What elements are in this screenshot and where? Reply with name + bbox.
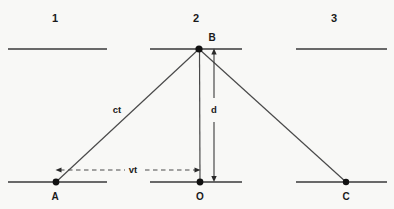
- point-b-dot: [195, 45, 202, 52]
- frame-label-1: 1: [52, 13, 58, 24]
- light-clock-diagram-svg: [0, 0, 394, 209]
- measure-label-d: d: [211, 105, 217, 115]
- point-o-dot: [197, 179, 204, 186]
- point-a-dot: [53, 179, 60, 186]
- dimension-d-arrowhead-down: [211, 176, 216, 182]
- light-rays-group: [56, 49, 346, 182]
- point-c-dot: [343, 179, 349, 185]
- node-dots-group: [53, 45, 350, 185]
- dimension-d-group: [211, 49, 216, 183]
- ray-b-to-c: [199, 49, 346, 182]
- point-label-a: A: [51, 192, 58, 202]
- diagram-canvas: 1 2 3 A O B C ct d vt: [0, 0, 394, 209]
- ray-b-to-o: [200, 49, 201, 182]
- point-label-b: B: [208, 33, 215, 43]
- dimension-vt-arrowhead-left: [56, 167, 62, 172]
- point-label-c: C: [342, 192, 349, 202]
- measure-label-ct: ct: [113, 105, 121, 115]
- frame-label-2: 2: [193, 13, 199, 24]
- point-label-o: O: [196, 192, 204, 202]
- frame-label-3: 3: [331, 13, 337, 24]
- measure-label-vt: vt: [129, 165, 137, 175]
- ray-a-to-b: [56, 49, 199, 182]
